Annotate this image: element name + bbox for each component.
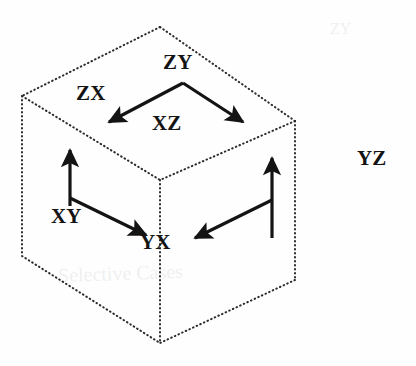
label-zy: ZY [163, 52, 193, 73]
figure-canvas: Selective Cases ZY [0, 0, 416, 366]
label-yx: YX [140, 232, 171, 253]
arrow-zy-to-xz [183, 83, 243, 122]
cube-wireframe [22, 27, 295, 343]
label-xy: XY [51, 206, 82, 227]
label-xz: XZ [152, 113, 182, 134]
cube-edge-center-left [22, 96, 160, 180]
cube-edge-top-right [160, 27, 295, 121]
label-yz: YZ [357, 148, 387, 169]
cube-edge-bottom-left [22, 256, 160, 343]
arrow-group [70, 83, 272, 238]
cube-edge-bottom-right [160, 280, 295, 343]
cube-diagram-svg [0, 0, 416, 366]
arrow-yz-to-yx [195, 200, 272, 238]
label-zx: ZX [76, 83, 106, 104]
